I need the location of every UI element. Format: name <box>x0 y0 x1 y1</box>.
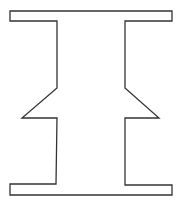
i-beam-shape <box>0 0 185 205</box>
i-beam-outline <box>10 11 172 195</box>
diagram-canvas <box>0 0 185 205</box>
